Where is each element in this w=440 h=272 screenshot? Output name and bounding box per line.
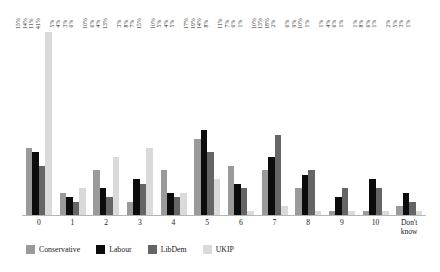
- bar-value-label: 14%: [30, 8, 36, 19]
- bar-group: 3%8%7%15%: [127, 14, 153, 215]
- bar-value-label: 17%: [192, 8, 198, 19]
- bar-rect[interactable]: [113, 157, 120, 215]
- bar-value-label: 5%: [165, 9, 171, 17]
- x-tick-7: 7: [258, 218, 292, 227]
- bar-group: 15%14%11%41%: [26, 14, 52, 215]
- bar-ukip[interactable]: 1%: [348, 14, 355, 215]
- x-tick-0: 0: [22, 218, 56, 227]
- bar-value-label: 1%: [312, 9, 318, 17]
- bar-value-label: 7%: [137, 9, 143, 17]
- bar-value-label: 1%: [346, 9, 352, 17]
- bar-value-label: 6%: [238, 9, 244, 17]
- bar-group: 17%19%14%8%: [194, 14, 220, 215]
- x-axis-line: [22, 215, 426, 216]
- chart-legend: ConservativeLabourLibDemUKIP: [26, 245, 234, 254]
- bar-rect[interactable]: [79, 188, 86, 215]
- bar-value-label: 3%: [124, 9, 130, 17]
- bar-ukip[interactable]: 8%: [214, 14, 221, 215]
- bar-value-label: 6%: [293, 9, 299, 17]
- bar-value-label: 3%: [70, 9, 76, 17]
- x-tick-11: Don't know: [392, 218, 426, 236]
- bar-ukip[interactable]: 15%: [146, 14, 153, 215]
- x-axis-tick-labels: 012345678910Don't know: [22, 218, 426, 244]
- bar-rect[interactable]: [45, 32, 52, 215]
- x-tick-3: 3: [123, 218, 157, 227]
- bar-value-label: 10%: [158, 8, 164, 19]
- bar-ukip[interactable]: 5%: [180, 14, 187, 215]
- bar-value-label: 8%: [367, 9, 373, 17]
- bar-ukip[interactable]: 1%: [382, 14, 389, 215]
- x-tick-2: 2: [89, 218, 123, 227]
- legend-swatch-icon: [26, 245, 35, 254]
- bar-ukip[interactable]: 1%: [315, 14, 322, 215]
- bar-group: 5%4%3%6%: [60, 14, 86, 215]
- bar-value-label: 41%: [43, 8, 49, 19]
- x-tick-4: 4: [157, 218, 191, 227]
- bar-value-label: 11%: [36, 8, 42, 18]
- bar-value-label: 5%: [57, 9, 63, 17]
- legend-label: UKIP: [216, 245, 234, 254]
- bar-value-label: 7%: [232, 9, 238, 17]
- bar-value-label: 6%: [373, 9, 379, 17]
- bar-ukip[interactable]: 1%: [247, 14, 254, 215]
- bar-value-label: 1%: [413, 9, 419, 17]
- bar-rect[interactable]: [146, 148, 153, 215]
- bar-value-label: 8%: [211, 9, 217, 17]
- bar-value-label: 1%: [360, 9, 366, 17]
- bar-value-label: 3%: [407, 9, 413, 17]
- legend-label: LibDem: [161, 245, 187, 254]
- bar-group: 10%13%18%2%: [262, 14, 288, 215]
- bar-group: 10%6%4%13%: [93, 14, 119, 215]
- bar-value-label: 1%: [245, 9, 251, 17]
- bar-group: 2%5%3%1%: [396, 14, 422, 215]
- bar-value-label: 4%: [104, 9, 110, 17]
- bar-value-label: 10%: [306, 8, 312, 19]
- legend-swatch-icon: [203, 245, 212, 254]
- bar-rect[interactable]: [281, 206, 288, 215]
- bar-value-label: 6%: [77, 9, 83, 17]
- bar-value-label: 8%: [131, 9, 137, 17]
- legend-item-conservative[interactable]: Conservative: [26, 245, 80, 254]
- bar-value-label: 5%: [178, 9, 184, 17]
- bar-group: 10%5%4%5%: [161, 14, 187, 215]
- bar-rect[interactable]: [180, 193, 187, 215]
- legend-label: Labour: [109, 245, 132, 254]
- x-tick-5: 5: [190, 218, 224, 227]
- bar-value-label: 10%: [91, 8, 97, 19]
- bar-value-label: 11%: [225, 8, 231, 18]
- legend-item-libdem[interactable]: LibDem: [148, 245, 187, 254]
- bar-value-label: 4%: [333, 9, 339, 17]
- x-tick-8: 8: [291, 218, 325, 227]
- bar-group: 1%4%6%1%: [329, 14, 355, 215]
- bar-value-label: 18%: [272, 8, 278, 19]
- bar-ukip[interactable]: 41%: [45, 14, 52, 215]
- bar-value-label: 15%: [23, 8, 29, 19]
- bar-value-label: 14%: [205, 8, 211, 19]
- bar-ukip[interactable]: 2%: [281, 14, 288, 215]
- x-tick-9: 9: [325, 218, 359, 227]
- bar-ukip[interactable]: 13%: [113, 14, 120, 215]
- legend-label: Conservative: [39, 245, 80, 254]
- bar-ukip[interactable]: 1%: [416, 14, 423, 215]
- bar-value-label: 2%: [394, 9, 400, 17]
- bar-rect[interactable]: [214, 179, 221, 215]
- bar-value-label: 4%: [171, 9, 177, 17]
- bar-ukip[interactable]: 6%: [79, 14, 86, 215]
- bar-value-label: 1%: [326, 9, 332, 17]
- bar-value-label: 6%: [97, 9, 103, 17]
- legend-item-ukip[interactable]: UKIP: [203, 245, 234, 254]
- bar-group: 1%8%6%1%: [363, 14, 389, 215]
- bar-chart: 15%14%11%41%5%4%3%6%10%6%4%13%3%8%7%15%1…: [0, 0, 440, 272]
- x-tick-1: 1: [56, 218, 90, 227]
- bar-value-label: 9%: [299, 9, 305, 17]
- x-tick-10: 10: [359, 218, 393, 227]
- bar-value-label: 4%: [64, 9, 70, 17]
- legend-swatch-icon: [148, 245, 157, 254]
- bar-value-label: 15%: [144, 8, 150, 19]
- bar-group: 6%9%10%1%: [295, 14, 321, 215]
- bar-value-label: 2%: [279, 9, 285, 17]
- bar-group: 11%7%6%1%: [228, 14, 254, 215]
- legend-item-labour[interactable]: Labour: [96, 245, 132, 254]
- bar-value-label: 13%: [110, 8, 116, 19]
- bar-value-label: 5%: [400, 9, 406, 17]
